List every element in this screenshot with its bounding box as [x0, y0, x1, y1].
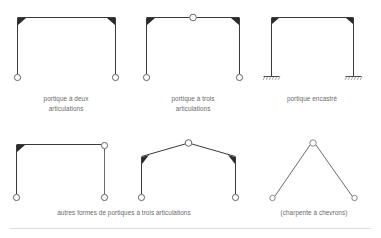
hinge-base-right-icon: [101, 194, 107, 200]
frame1-caption-line1: portique à deux: [44, 95, 90, 103]
frame-types-diagram: portique à deux articulations portique à…: [0, 0, 381, 238]
hinge-corner-right-icon: [101, 142, 107, 148]
frame-gabled: [138, 140, 238, 201]
hinge-base-right-icon: [352, 195, 357, 200]
diagram-canvas: portique à deux articulations portique à…: [0, 0, 381, 238]
rafter-right: [316, 145, 352, 196]
fixed-support-right-icon: [345, 77, 362, 81]
bottom-right-caption: (charpente à chevrons): [281, 209, 348, 217]
haunch-left-icon: [147, 18, 155, 25]
rafter-right: [192, 144, 236, 157]
hinge-base-left-icon: [138, 194, 144, 200]
frame-fixed: portique encastré: [263, 18, 362, 104]
haunch-right-icon: [346, 18, 353, 24]
hinge-beam-midspan-icon: [190, 14, 197, 21]
haunch-right-icon: [107, 18, 115, 25]
hinge-base-left-icon: [270, 195, 275, 200]
hinge-base-left-icon: [143, 74, 149, 80]
frame-rafter: [270, 140, 357, 201]
haunch-right-icon: [231, 18, 239, 25]
haunch-left-icon: [17, 145, 25, 152]
hinge-base-left-icon: [13, 194, 19, 200]
frame3-caption: portique encastré: [287, 95, 338, 103]
frame2-caption-line1: portique à trois: [171, 95, 214, 103]
frame-three-hinged: portique à trois articulations: [143, 14, 242, 112]
haunch-left-icon: [272, 18, 279, 24]
hinge-base-right-icon: [112, 74, 118, 80]
hinge-base-left-icon: [14, 74, 20, 80]
haunch-left-icon: [18, 18, 26, 25]
hinge-base-right-icon: [236, 74, 242, 80]
frame1-caption-line2: articulations: [49, 105, 84, 112]
fixed-support-left-icon: [263, 77, 280, 81]
frame-corner-hinge: [13, 142, 107, 200]
hinge-base-right-icon: [232, 194, 238, 200]
frame2-caption-line2: articulations: [176, 105, 211, 112]
hinge-ridge-icon: [310, 140, 316, 146]
hinge-ridge-icon: [185, 140, 192, 147]
rafter-left: [142, 144, 186, 157]
rafter-left: [275, 145, 310, 196]
frame-two-hinged: portique à deux articulations: [14, 18, 118, 113]
bottom-left-caption: autres formes de portiques à trois artic…: [57, 209, 190, 217]
